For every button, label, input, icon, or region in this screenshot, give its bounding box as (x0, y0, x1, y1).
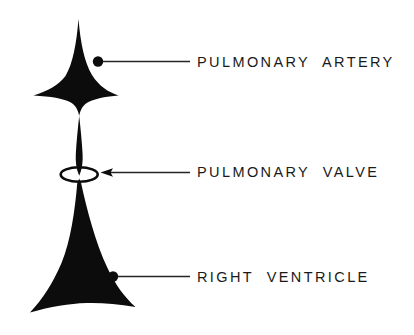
label-right-ventricle: RIGHT VENTRICLE (197, 270, 370, 285)
right-ventricle-body (30, 179, 136, 313)
label-pulmonary-valve: PULMONARY VALVE (197, 165, 379, 180)
right-ventricle-shape (30, 179, 136, 313)
leader-right-ventricle (108, 271, 190, 281)
anatomy-diagram: PULMONARY ARTERY PULMONARY VALVE RIGHT V… (0, 0, 414, 335)
pulmonary-artery-marker-dot (93, 56, 103, 66)
leader-pulmonary-artery (93, 56, 190, 66)
label-pulmonary-artery: PULMONARY ARTERY (197, 55, 395, 70)
pulmonary-artery-shape (34, 19, 119, 176)
pulmonary-artery-body (34, 19, 119, 176)
leader-pulmonary-valve (101, 168, 191, 177)
right-ventricle-marker-dot (108, 271, 118, 281)
